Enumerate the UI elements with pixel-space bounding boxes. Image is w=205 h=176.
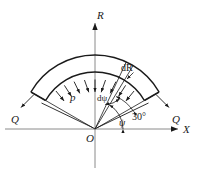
ray-150deg — [31, 92, 95, 129]
pressure-arrow — [126, 91, 134, 101]
dpsi-arrow-right — [113, 99, 120, 103]
q-leader-left — [42, 103, 94, 128]
base-angle-label: 30° — [132, 111, 146, 122]
q-arrow-right — [156, 95, 169, 108]
psi-label: ψ — [119, 117, 126, 128]
pressure-arrow — [56, 91, 64, 101]
diagram-svg: R X O p Q Q dR dψ ψ 30° — [0, 0, 205, 176]
diagram-labels: R X O p Q Q dR dψ ψ 30° — [11, 9, 191, 144]
dr-label: dR — [121, 62, 133, 73]
pressure-arrow — [84, 80, 88, 92]
base-angle-arc — [116, 97, 134, 112]
dpsi-label: dψ — [97, 93, 108, 103]
q-label-right: Q — [172, 113, 180, 125]
q-label-left: Q — [11, 113, 19, 125]
r-axis-label: R — [96, 9, 104, 21]
pressure-label: p — [69, 91, 76, 103]
q-arrow-left — [21, 95, 34, 108]
pressure-arrow — [101, 80, 105, 92]
figure-canvas: R X O p Q Q dR dψ ψ 30° — [0, 0, 205, 176]
origin-label: O — [86, 132, 94, 144]
pressure-arrow — [119, 85, 126, 96]
pressure-arrow — [110, 82, 116, 94]
x-axis-label: X — [182, 123, 191, 135]
